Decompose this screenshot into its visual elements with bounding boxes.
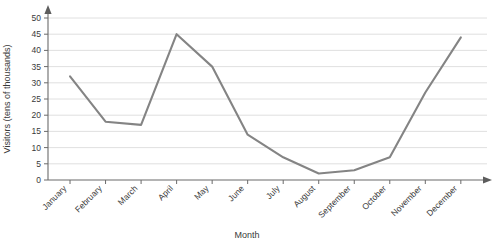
y-axis-arrow-icon [44,5,51,14]
y-tick-label-30: 30 [32,78,42,88]
y-tick-label-35: 35 [32,62,42,72]
y-tick-label-40: 40 [32,45,42,55]
y-tick-label-0: 0 [36,175,41,185]
x-tick-label-may: May [192,183,211,202]
x-axis-title: Month [234,230,259,240]
y-tick-label-50: 50 [32,13,42,23]
y-tick-label-25: 25 [32,94,42,104]
x-tick-label-july: July [264,183,282,201]
line-chart-figure: 50 45 40 35 30 25 20 15 10 5 0 JanuaryFe… [0,0,495,248]
y-tick-label-10: 10 [32,143,42,153]
x-tick-label-september: September [316,183,353,220]
x-tick-label-february: February [73,183,105,215]
visitors-data-line [70,34,461,173]
x-tick-label-october: October [360,183,389,212]
x-tick-label-november: November [389,183,424,218]
x-axis-ticks [70,180,461,184]
x-tick-label-december: December [424,183,459,218]
x-tick-label-march: March [116,183,140,207]
y-axis [44,5,51,180]
y-axis-title: Visitors (tens of thousands) [2,45,12,154]
y-tick-label-45: 45 [32,29,42,39]
y-axis-ticks [44,18,48,180]
chart-canvas: 50 45 40 35 30 25 20 15 10 5 0 JanuaryFe… [0,0,495,248]
x-tick-label-june: June [226,183,246,203]
gridlines [48,18,487,164]
x-tick-label-august: August [291,183,317,209]
x-tick-label-january: January [40,183,69,212]
y-tick-label-5: 5 [36,159,41,169]
y-tick-label-15: 15 [32,126,42,136]
x-axis-arrow-icon [483,176,492,183]
x-axis-tick-labels: JanuaryFebruaryMarchAprilMayJuneJulyAugu… [40,183,459,220]
y-tick-label-20: 20 [32,110,42,120]
y-axis-tick-labels: 50 45 40 35 30 25 20 15 10 5 0 [32,13,42,185]
x-tick-label-april: April [156,183,175,202]
